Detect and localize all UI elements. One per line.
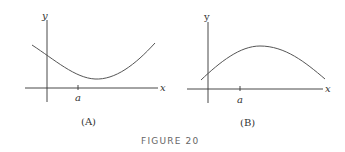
- panel-b-y-label: y: [203, 11, 210, 22]
- panel-b-curve: [201, 46, 325, 80]
- panel-a-label: (A): [81, 116, 96, 127]
- figure-20: y x a (A) y x a (B) FIGURE 20: [0, 0, 345, 152]
- figure-caption: FIGURE 20: [141, 136, 199, 146]
- panel-b-tick-label: a: [237, 94, 243, 105]
- panel-b-x-label: x: [325, 83, 331, 94]
- panel-a-tick-label: a: [75, 92, 81, 103]
- panel-b-label: (B): [240, 117, 255, 128]
- panel-a-y-label: y: [41, 10, 48, 21]
- panel-a-x-label: x: [160, 82, 166, 93]
- panel-a: y x a (A): [25, 10, 166, 127]
- panel-a-curve: [32, 43, 155, 79]
- panel-b: y x a (B): [187, 11, 331, 128]
